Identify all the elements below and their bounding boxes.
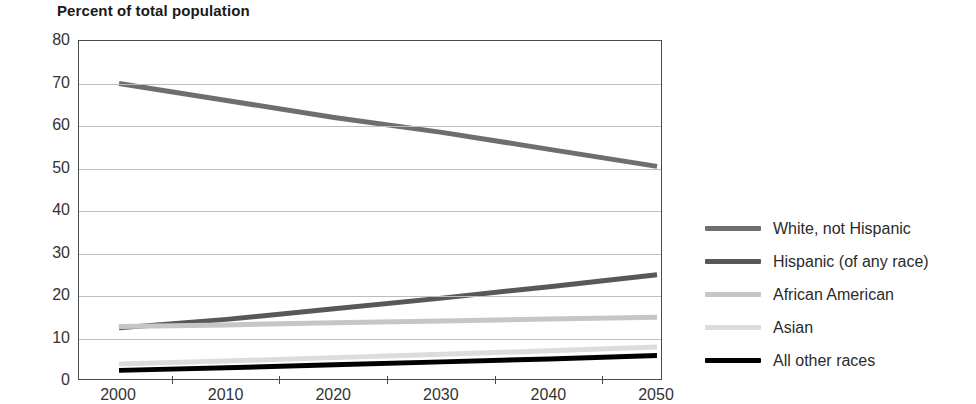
x-axis-tick-label: 2040 [531, 386, 567, 404]
legend-item[interactable]: Hispanic (of any race) [705, 245, 967, 278]
x-axis-tick-mark [387, 376, 388, 384]
x-axis-labels: 200020102020203020402050 [78, 384, 662, 404]
legend-swatch-icon [705, 358, 761, 363]
legend-item-label: African American [773, 286, 894, 304]
x-axis-tick-label: 2030 [423, 386, 459, 404]
legend-swatch-icon [705, 325, 761, 330]
legend-item-label: Hispanic (of any race) [773, 253, 929, 271]
page-title: Percent of total population [57, 2, 250, 19]
gridline [79, 126, 661, 127]
x-axis-tick-label: 2050 [638, 386, 674, 404]
series-line [119, 84, 657, 167]
legend-item-label: All other races [773, 352, 875, 370]
gridline [79, 211, 661, 212]
x-axis-tick-mark [602, 376, 603, 384]
legend-item[interactable]: All other races [705, 344, 967, 377]
x-axis-tick-label: 2000 [100, 386, 136, 404]
y-axis-tick-label: 60 [36, 117, 70, 133]
gridline [79, 84, 661, 85]
legend-item[interactable]: African American [705, 278, 967, 311]
y-axis-tick-label: 10 [36, 330, 70, 346]
x-axis-tick-label: 2020 [315, 386, 351, 404]
legend: White, not HispanicHispanic (of any race… [705, 212, 967, 377]
legend-swatch-icon [705, 226, 761, 231]
gridline [79, 339, 661, 340]
y-axis-tick-label: 40 [36, 202, 70, 218]
x-axis-tick-mark [495, 376, 496, 384]
y-axis-tick-label: 50 [36, 160, 70, 176]
legend-item-label: White, not Hispanic [773, 220, 911, 238]
y-axis-tick-label: 0 [36, 372, 70, 388]
legend-swatch-icon [705, 292, 761, 297]
legend-item[interactable]: White, not Hispanic [705, 212, 967, 245]
legend-item-label: Asian [773, 319, 813, 337]
y-axis-tick-label: 30 [36, 245, 70, 261]
gridline [79, 254, 661, 255]
y-axis-labels: 01020304050607080 [34, 40, 70, 380]
x-axis-tick-label: 2010 [208, 386, 244, 404]
gridline [79, 296, 661, 297]
y-axis-tick-label: 70 [36, 75, 70, 91]
y-axis-tick-label: 20 [36, 287, 70, 303]
legend-item[interactable]: Asian [705, 311, 967, 344]
gridline [79, 169, 661, 170]
plot-area [78, 40, 662, 380]
x-axis-tick-mark [172, 376, 173, 384]
y-axis-tick-label: 80 [36, 32, 70, 48]
x-axis-tick-mark [279, 376, 280, 384]
legend-swatch-icon [705, 259, 761, 264]
